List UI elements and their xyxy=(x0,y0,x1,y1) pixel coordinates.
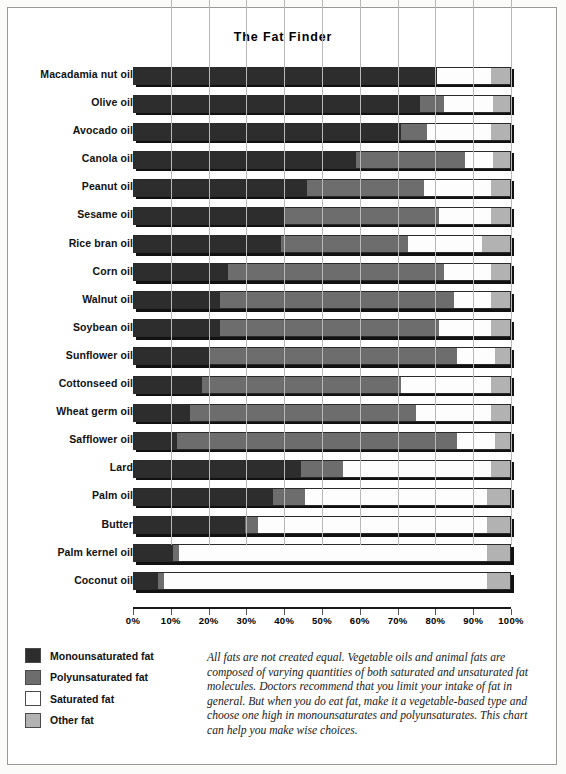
chart-row: Peanut oil xyxy=(0,174,566,202)
chart-caption: All fats are not created equal. Vegetabl… xyxy=(207,651,529,739)
bar-segment-other xyxy=(491,320,510,336)
category-label: Canola oil xyxy=(0,152,133,164)
bar-segment-poly xyxy=(202,377,401,393)
stacked-bar xyxy=(133,432,511,450)
bar-segment-sat xyxy=(343,461,492,477)
bar-body xyxy=(133,347,511,365)
bar-segment-sat xyxy=(427,124,491,140)
stacked-bar xyxy=(133,319,511,337)
page-title: The Fat Finder xyxy=(0,30,566,44)
bar-segment-poly xyxy=(401,124,427,140)
bar-segment-sat xyxy=(439,320,492,336)
stacked-bar xyxy=(133,544,511,562)
bar-body xyxy=(133,404,511,422)
category-label: Wheat germ oil xyxy=(0,405,133,417)
stacked-bar xyxy=(133,516,511,534)
bar-body xyxy=(133,291,511,309)
bar-body xyxy=(133,544,511,562)
chart-row: Macadamia nut oil xyxy=(0,62,566,90)
bar-segment-other xyxy=(493,152,510,168)
bar-segment-other xyxy=(482,236,510,252)
bar-segment-mono xyxy=(134,208,284,224)
x-axis-tick-label: 100% xyxy=(498,615,524,626)
stacked-bar xyxy=(133,151,511,169)
chart-row: Olive oil xyxy=(0,90,566,118)
bar-body xyxy=(133,376,511,394)
bar-body xyxy=(133,432,511,450)
bar-segment-sat xyxy=(416,405,491,421)
bar-segment-sat xyxy=(465,152,493,168)
category-label: Rice bran oil xyxy=(0,237,133,249)
chart-row: Soybean oil xyxy=(0,315,566,343)
bar-segment-mono xyxy=(134,68,437,84)
legend-item-poly: Polyunsaturated fat xyxy=(25,667,215,689)
legend-swatch-other xyxy=(25,713,41,728)
chart-plot-area: Macadamia nut oilOlive oilAvocado oilCan… xyxy=(0,62,566,607)
stacked-bar xyxy=(133,291,511,309)
bar-body xyxy=(133,263,511,281)
bar-body xyxy=(133,151,511,169)
x-axis-tick-label: 40% xyxy=(274,615,294,626)
bar-segment-sat xyxy=(457,348,495,364)
x-axis-tick-label: 10% xyxy=(161,615,181,626)
bar-segment-mono xyxy=(134,377,202,393)
bar-segment-other xyxy=(487,489,510,505)
legend-label: Saturated fat xyxy=(50,693,114,705)
chart-row: Wheat germ oil xyxy=(0,399,566,427)
bar-segment-poly xyxy=(228,264,444,280)
stacked-bar xyxy=(133,123,511,141)
chart-row: Sesame oil xyxy=(0,202,566,230)
bar-segment-mono xyxy=(134,405,190,421)
legend-label: Monounsaturated fat xyxy=(50,650,154,662)
stacked-bar xyxy=(133,376,511,394)
chart-row: Sunflower oil xyxy=(0,343,566,371)
bar-body xyxy=(133,460,511,478)
stacked-bar xyxy=(133,347,511,365)
chart-legend: Monounsaturated fatPolyunsaturated fatSa… xyxy=(25,645,215,731)
bar-segment-other xyxy=(495,348,510,364)
chart-row: Avocado oil xyxy=(0,118,566,146)
chart-row: Coconut oil xyxy=(0,568,566,596)
x-axis-tick-label: 30% xyxy=(236,615,256,626)
x-axis: 0%10%20%30%40%50%60%70%80%90%100% xyxy=(133,607,511,633)
legend-label: Other fat xyxy=(50,714,94,726)
legend-swatch-poly xyxy=(25,670,41,685)
bar-segment-mono xyxy=(134,461,301,477)
bar-segment-poly xyxy=(273,489,305,505)
bar-segment-mono xyxy=(134,124,401,140)
bar-segment-other xyxy=(491,292,510,308)
category-label: Corn oil xyxy=(0,265,133,277)
bar-segment-poly xyxy=(220,320,438,336)
x-axis-tick-label: 60% xyxy=(350,615,370,626)
bar-segment-mono xyxy=(134,180,307,196)
bar-segment-sat xyxy=(444,96,493,112)
bar-segment-poly xyxy=(245,517,258,533)
bar-segment-poly xyxy=(356,152,465,168)
bar-segment-other xyxy=(495,433,510,449)
bar-segment-mono xyxy=(134,152,356,168)
bar-segment-mono xyxy=(134,489,273,505)
bar-segment-sat xyxy=(179,545,487,561)
bar-body xyxy=(133,235,511,253)
bar-segment-mono xyxy=(134,348,209,364)
bar-segment-mono xyxy=(134,320,220,336)
bar-segment-sat xyxy=(439,208,492,224)
bar-segment-mono xyxy=(134,236,281,252)
bar-segment-mono xyxy=(134,545,173,561)
x-axis-tick-label: 20% xyxy=(199,615,219,626)
stacked-bar xyxy=(133,263,511,281)
bar-body xyxy=(133,516,511,534)
category-label: Sunflower oil xyxy=(0,349,133,361)
stacked-bar xyxy=(133,572,511,590)
stacked-bar xyxy=(133,207,511,225)
bar-body xyxy=(133,95,511,113)
bar-body xyxy=(133,67,511,85)
bar-segment-sat xyxy=(457,433,495,449)
chart-row: Lard xyxy=(0,455,566,483)
category-label: Macadamia nut oil xyxy=(0,68,133,80)
bar-segment-poly xyxy=(301,461,342,477)
bar-segment-poly xyxy=(177,433,457,449)
bar-segment-sat xyxy=(424,180,492,196)
chart-row: Safflower oil xyxy=(0,427,566,455)
bar-segment-mono xyxy=(134,96,420,112)
